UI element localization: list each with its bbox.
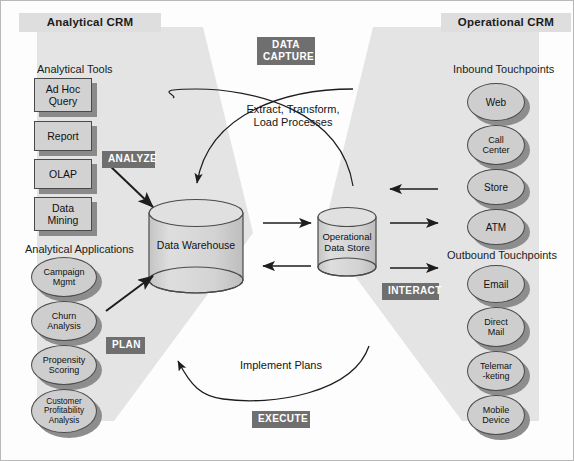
touchpoint-call-center[interactable]: Call Center xyxy=(467,125,525,165)
tool-label-line1: Report xyxy=(47,130,79,142)
etl-label: Extract, Transform, Load Processes xyxy=(213,103,373,129)
touchpoint-email[interactable]: Email xyxy=(467,265,525,303)
touchpoint-store[interactable]: Store xyxy=(467,169,525,205)
process-label-execute: Execute xyxy=(252,411,310,428)
header-operational-crm: Operational CRM xyxy=(441,13,571,32)
touchpoint-label-line1: Email xyxy=(483,279,508,290)
data-warehouse-label: Data Warehouse xyxy=(149,239,243,251)
app-label-line2: Scoring xyxy=(49,365,80,375)
touchpoint-label-line1: ATM xyxy=(486,222,506,233)
app-label-line1: Campaign xyxy=(43,267,84,277)
process-label-data-capture: Data Capture xyxy=(257,37,315,65)
app-propensity-scoring[interactable]: Propensity Scoring xyxy=(31,345,97,385)
app-label-line3: Analysis xyxy=(49,416,80,425)
app-label-line1: Customer xyxy=(46,397,82,406)
app-label-line1: Propensity xyxy=(43,355,86,365)
app-label-line2: Analysis xyxy=(47,321,81,331)
app-label-line2: Profitability xyxy=(44,406,84,415)
caption-analytical-tools: Analytical Tools xyxy=(37,63,113,75)
ods-label-line2: Data Store xyxy=(301,242,393,253)
touchpoint-web[interactable]: Web xyxy=(467,83,525,121)
data-warehouse-label-wrap: Data Warehouse xyxy=(149,239,243,251)
touchpoint-mobile-device[interactable]: Mobile Device xyxy=(467,395,525,435)
touchpoint-label-line1: Web xyxy=(486,97,506,108)
crm-architecture-diagram: Analytical CRM Operational CRM Analytica… xyxy=(0,0,574,461)
touchpoint-telemarketing[interactable]: Telemar -keting xyxy=(467,351,525,391)
app-churn-analysis[interactable]: Churn Analysis xyxy=(31,301,97,341)
tool-label-line1: Data xyxy=(52,202,74,214)
touchpoint-label-line1: Store xyxy=(484,182,508,193)
touchpoint-label-line2: -keting xyxy=(482,371,509,381)
touchpoint-label-line1: Call xyxy=(488,135,504,145)
app-label-line1: Churn xyxy=(52,311,77,321)
touchpoint-label-line2: Mail xyxy=(488,327,505,337)
tool-label-line2: Query xyxy=(49,95,78,107)
operational-data-store-label-wrap: Operational Data Store xyxy=(301,231,393,253)
tool-label-line1: OLAP xyxy=(49,168,77,180)
touchpoint-atm[interactable]: ATM xyxy=(467,209,525,245)
app-customer-profitability-analysis[interactable]: Customer Profitability Analysis xyxy=(31,389,97,433)
implement-plans-label: Implement Plans xyxy=(206,359,356,372)
etl-line2: Load Processes xyxy=(213,116,373,129)
app-label-line2: Mgmt xyxy=(53,277,76,287)
data-capture-line1: Data xyxy=(263,39,309,51)
process-label-interact: Interact xyxy=(382,283,439,300)
tool-label-line2: Mining xyxy=(48,214,79,226)
ods-label-line1: Operational xyxy=(301,231,393,242)
caption-analytical-applications: Analytical Applications xyxy=(25,243,134,255)
tool-report[interactable]: Report xyxy=(34,121,92,151)
tool-olap[interactable]: OLAP xyxy=(34,159,92,189)
etl-line1: Extract, Transform, xyxy=(213,103,373,116)
process-label-analyze: Analyze xyxy=(102,151,155,168)
touchpoint-label-line1: Mobile xyxy=(483,405,510,415)
caption-outbound-touchpoints: Outbound Touchpoints xyxy=(447,249,557,261)
touchpoint-label-line1: Direct xyxy=(484,317,508,327)
app-campaign-mgmt[interactable]: Campaign Mgmt xyxy=(31,257,97,297)
touchpoint-label-line1: Telemar xyxy=(480,361,512,371)
data-capture-line2: Capture xyxy=(263,51,309,63)
process-label-plan: Plan xyxy=(106,337,145,354)
tool-label-line1: Ad Hoc xyxy=(46,83,80,95)
caption-inbound-touchpoints: Inbound Touchpoints xyxy=(453,63,554,75)
tool-data-mining[interactable]: Data Mining xyxy=(34,197,92,231)
header-analytical-crm: Analytical CRM xyxy=(19,13,161,32)
touchpoint-direct-mail[interactable]: Direct Mail xyxy=(467,307,525,347)
implement-plans-arc xyxy=(178,346,369,401)
touchpoint-label-line2: Center xyxy=(482,145,509,155)
tool-ad-hoc-query[interactable]: Ad Hoc Query xyxy=(34,78,92,112)
touchpoint-label-line2: Device xyxy=(482,415,510,425)
